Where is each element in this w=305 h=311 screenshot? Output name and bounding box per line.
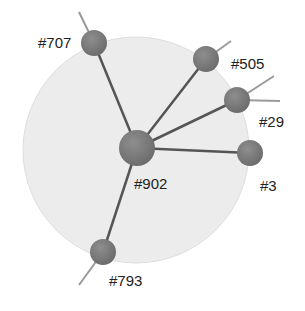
node-label-902: #902 [134,175,167,192]
node-707[interactable] [81,30,107,56]
center-node-902[interactable] [119,130,155,166]
node-label-505: #505 [231,55,264,72]
node-label-29: #29 [259,113,284,130]
node-label-707: #707 [38,34,71,51]
node-label-3: #3 [260,177,277,194]
node-505[interactable] [193,46,219,72]
node-29[interactable] [224,87,250,113]
network-diagram: #902#707#505#29#3#793 [0,0,305,311]
node-3[interactable] [237,140,263,166]
node-label-793: #793 [109,272,142,289]
node-793[interactable] [90,239,116,265]
